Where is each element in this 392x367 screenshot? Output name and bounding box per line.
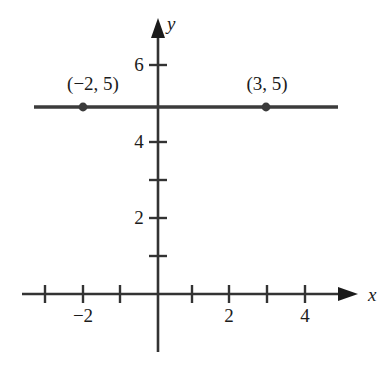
y-axis-label: y (167, 14, 175, 33)
coordinate-plane-figure: x y −2 2 4 2 4 6 (−2, 5) (3, 5) (0, 0, 392, 367)
graph-canvas (0, 0, 392, 367)
x-tick-label-4: 4 (300, 306, 310, 325)
x-tick-label-2: 2 (224, 306, 234, 325)
point-annotation-minus2-5: (−2, 5) (67, 74, 119, 93)
point-annotation-3-5: (3, 5) (246, 74, 287, 93)
y-tick-label-4: 4 (134, 132, 144, 151)
data-point-minus2-5 (79, 103, 88, 112)
data-point-3-5 (262, 103, 271, 112)
x-axis-label: x (368, 285, 376, 304)
y-tick-label-2: 2 (134, 208, 144, 227)
x-tick-label-minus2: −2 (73, 306, 93, 325)
y-axis (151, 18, 165, 352)
x-axis (22, 287, 358, 301)
y-tick-label-6: 6 (134, 55, 144, 74)
